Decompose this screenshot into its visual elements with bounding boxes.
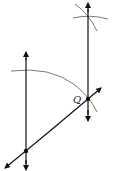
small-arc-horizontal [73,16,108,19]
point-bottom [24,149,28,153]
point-q-label: Q [73,94,81,105]
large-arc [11,70,97,112]
point-q [86,97,90,101]
construction-diagram: Q [0,0,113,171]
small-arc-diagonal [75,4,97,31]
